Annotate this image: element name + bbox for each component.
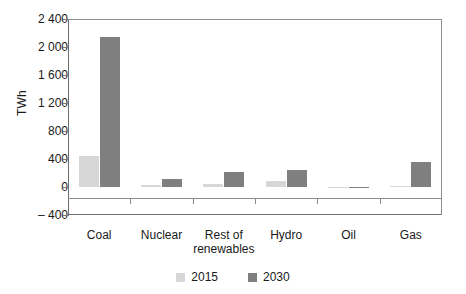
legend-item: 2015 xyxy=(176,270,218,284)
x-axis-label-line2: renewables xyxy=(178,242,270,256)
bar-2030-coal xyxy=(100,37,120,188)
bar-2030-oil xyxy=(349,187,369,188)
chart-legend: 20152030 xyxy=(0,270,466,284)
x-axis-label-line1: Gas xyxy=(365,228,457,242)
legend-label: 2030 xyxy=(263,270,290,284)
legend-item: 2030 xyxy=(248,270,290,284)
bar-2015-coal xyxy=(79,156,99,187)
x-tick-mark xyxy=(317,198,318,204)
y-tick-label: 1 200 xyxy=(10,97,68,109)
y-tick-label: 0 xyxy=(10,181,68,193)
x-tick-mark xyxy=(130,198,131,204)
y-tick-label: 2 400 xyxy=(10,13,68,25)
bar-group xyxy=(266,19,307,215)
bar-group xyxy=(203,19,244,215)
x-tick-mark xyxy=(255,198,256,204)
bar-2015-rest-of xyxy=(203,184,223,187)
bar-2015-hydro xyxy=(266,181,286,187)
y-tick-mark xyxy=(63,215,69,216)
x-tick-mark xyxy=(193,198,194,204)
legend-label: 2015 xyxy=(191,270,218,284)
bar-group xyxy=(390,19,431,215)
y-tick-label: 400 xyxy=(10,153,68,165)
y-tick-label: 1 600 xyxy=(10,69,68,81)
bar-group xyxy=(328,19,369,215)
bar-chart: TWh 2 4002 0001 6001 2008004000– 400 Coa… xyxy=(0,0,466,294)
bar-2015-nuclear xyxy=(141,185,161,187)
x-axis-label: Gas xyxy=(365,228,457,242)
legend-swatch-icon xyxy=(176,273,185,282)
bar-2015-gas xyxy=(390,186,410,187)
legend-swatch-icon xyxy=(248,273,257,282)
bar-2015-oil xyxy=(328,187,348,188)
bar-2030-gas xyxy=(411,162,431,187)
bar-2030-nuclear xyxy=(162,179,182,187)
bar-series-container xyxy=(68,19,442,215)
y-tick-label: 2 000 xyxy=(10,41,68,53)
y-tick-label: – 400 xyxy=(10,209,68,221)
bar-2030-hydro xyxy=(287,170,307,187)
x-tick-mark xyxy=(380,198,381,204)
y-axis-ticks: 2 4002 0001 6001 2008004000– 400 xyxy=(0,0,68,294)
y-tick-label: 800 xyxy=(10,125,68,137)
bar-2030-rest-of xyxy=(224,172,244,187)
bar-group xyxy=(79,19,120,215)
bar-group xyxy=(141,19,182,215)
